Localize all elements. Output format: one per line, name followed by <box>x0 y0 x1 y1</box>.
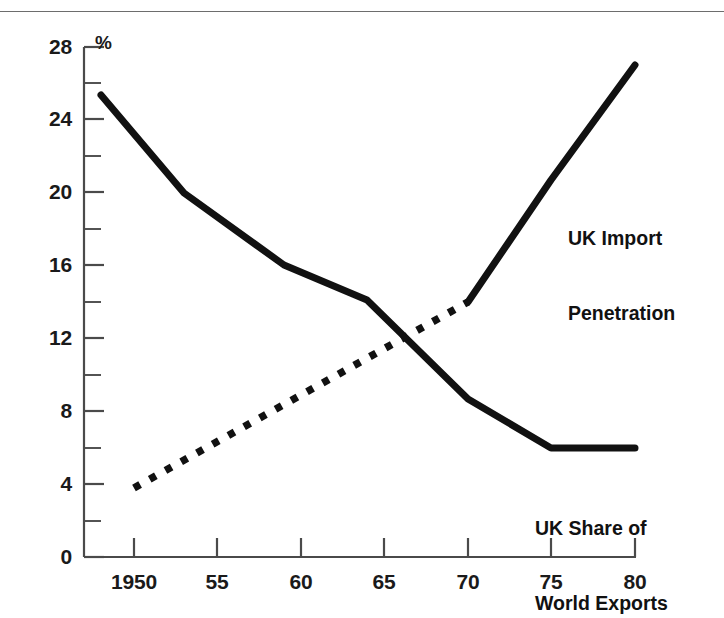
x-tick-label-1950: 1950 <box>111 570 157 594</box>
series-label-import-line1: UK Import <box>568 226 675 251</box>
series-label-uk-import-penetration: UK Import Penetration <box>568 176 675 376</box>
y-tick-label-4: 4 <box>28 472 72 496</box>
x-tick-label-60: 60 <box>290 570 313 594</box>
y-axis-minor-ticks <box>84 83 101 521</box>
series-label-share-line1: UK Share of <box>535 516 668 541</box>
x-tick-label-70: 70 <box>457 570 480 594</box>
x-tick-label-55: 55 <box>206 570 229 594</box>
y-tick-label-16: 16 <box>28 253 72 277</box>
y-tick-label-28: 28 <box>28 35 72 59</box>
series-uk-import-penetration-dotted <box>134 302 468 488</box>
y-tick-label-0: 0 <box>28 545 72 569</box>
series-label-import-line2: Penetration <box>568 301 675 326</box>
series-label-share-line2: World Exports <box>535 591 668 616</box>
y-tick-label-20: 20 <box>28 180 72 204</box>
y-tick-label-12: 12 <box>28 326 72 350</box>
y-axis-unit-label: % <box>95 32 112 54</box>
y-tick-label-8: 8 <box>28 399 72 423</box>
series-label-uk-share-of-world-exports: UK Share of World Exports <box>535 466 668 618</box>
y-tick-label-24: 24 <box>28 107 72 131</box>
x-tick-label-65: 65 <box>373 570 396 594</box>
series-uk-share-of-world-exports <box>101 95 635 448</box>
chart-figure: % 28 24 20 16 12 8 4 0 1950 55 60 65 70 … <box>0 0 724 618</box>
